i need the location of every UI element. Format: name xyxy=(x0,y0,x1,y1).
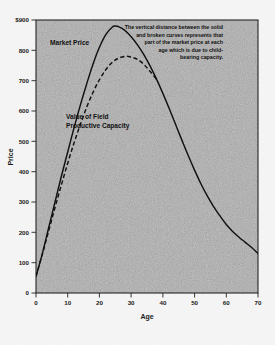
y-tick-100: 100 xyxy=(19,259,30,266)
note-line-4: age which is due to child- xyxy=(159,47,224,53)
x-tick-40: 40 xyxy=(159,299,166,306)
x-tick-70: 70 xyxy=(255,299,262,306)
note-line-1: The vertical distance between the solid xyxy=(125,24,223,30)
chart-svg: $900 800 700 600 500 400 300 200 100 0 0… xyxy=(0,0,275,345)
y-tick-200: 200 xyxy=(19,229,30,236)
note-line-5: bearing capacity. xyxy=(180,54,223,60)
y-tick-600: 600 xyxy=(19,107,30,114)
x-tick-50: 50 xyxy=(191,299,198,306)
y-tick-300: 300 xyxy=(19,198,30,205)
x-tick-10: 10 xyxy=(64,299,71,306)
x-tick-20: 20 xyxy=(96,299,103,306)
y-tick-900: $900 xyxy=(15,16,29,23)
market-price-label: Market Price xyxy=(50,39,90,46)
note-line-2: and broken curves represents that xyxy=(136,32,223,38)
x-tick-60: 60 xyxy=(223,299,230,306)
y-tick-400: 400 xyxy=(19,168,30,175)
y-tick-0: 0 xyxy=(26,289,30,296)
field-capacity-label-line1: Value of Field xyxy=(66,113,109,120)
x-tick-0: 0 xyxy=(34,299,38,306)
x-axis-title: Age xyxy=(140,313,153,321)
y-tick-800: 800 xyxy=(19,47,30,54)
y-tick-700: 700 xyxy=(19,77,30,84)
chart-figure: $900 800 700 600 500 400 300 200 100 0 0… xyxy=(0,0,275,345)
field-capacity-label-line2: Productive Capacity xyxy=(66,122,130,130)
x-tick-30: 30 xyxy=(128,299,135,306)
y-axis-title: Price xyxy=(7,148,14,165)
y-tick-500: 500 xyxy=(19,138,30,145)
note-line-3: part of the market price at each xyxy=(144,39,223,45)
